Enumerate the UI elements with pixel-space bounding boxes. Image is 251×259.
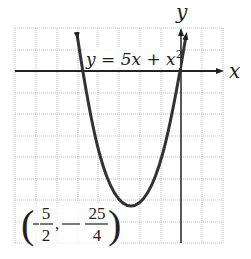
svg-text:): ) [108, 202, 121, 247]
svg-text:25: 25 [89, 204, 106, 223]
x-axis-label: x [229, 59, 240, 83]
equation-label: y = 5x + x2 [85, 48, 183, 69]
svg-text:2: 2 [42, 226, 51, 245]
svg-text:(: ( [21, 202, 34, 247]
vertex-label: ( 5 2 , 25 4 ) [20, 202, 121, 247]
y-axis-label: y [175, 0, 188, 24]
svg-text:,: , [55, 214, 59, 233]
svg-text:5: 5 [42, 204, 51, 223]
svg-text:4: 4 [93, 226, 102, 245]
parabola-graph: y x y = 5x + x2 ( 5 2 , 25 4 ) [0, 0, 251, 259]
